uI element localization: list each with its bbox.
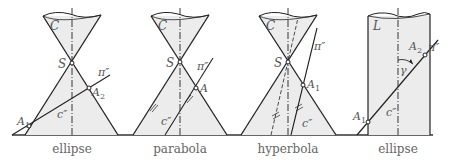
point-a2 [423,53,427,57]
panel-parabola: C S π″ c″ A parabola [133,8,227,156]
a-label: A [199,82,208,95]
plane-label: π″ [427,41,440,54]
apex-label: S [58,57,66,71]
curve-label: c″ [161,115,172,128]
caption-ellipse-cylinder: ellipse [378,142,418,156]
apex-point [70,61,74,65]
curve-label: c″ [57,108,68,121]
caption-hyperbola: hyperbola [258,142,319,156]
surface-label: C [50,19,59,33]
panel-hyperbola: C S π″ c″ A1 hyperbola [241,8,336,156]
curve-label: c″ [386,106,397,119]
caption-ellipse: ellipse [52,142,92,156]
point-a1 [301,83,305,87]
conic-sections-diagram: C S π″ c″ A1 A2 ellipse C S π″ c″ A para… [0,0,459,162]
apex-label: S [166,56,174,70]
plane-label: π″ [196,60,209,73]
caption-parabola: parabola [153,142,207,156]
point-a1 [366,120,370,124]
panel-ellipse-cone: C S π″ c″ A1 A2 ellipse [12,8,118,156]
a1-label: A1 [16,115,30,130]
apex-point [286,60,290,64]
point-a [194,86,198,90]
plane-label: π″ [97,66,110,79]
plane-label: π″ [313,40,326,53]
surface-label: L [372,19,381,33]
panel-ellipse-cylinder: L π″ c″ γ A1 A2 ellipse [352,8,440,156]
curve-label: c″ [302,117,313,130]
angle-label: γ [400,64,407,77]
a1-label: A1 [352,110,366,125]
point-a2 [87,86,91,90]
a1-label: A1 [306,78,320,93]
surface-label: C [266,19,275,33]
surface-label: C [158,19,167,33]
apex-label: S [274,56,282,70]
a2-label: A2 [91,86,105,101]
apex-point [178,60,182,64]
